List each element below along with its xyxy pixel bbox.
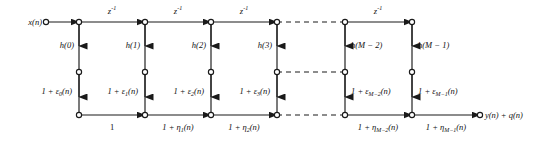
- tap-label-h3: h(3): [258, 41, 272, 50]
- gain-label-eps2: 1 + ε2(n): [173, 87, 204, 98]
- gain-label-eps3: 1 + ε3(n): [239, 87, 270, 98]
- tap-label-hM2: h(M − 2): [351, 41, 382, 50]
- input-node: [43, 19, 48, 24]
- delay-label-3: z-1: [374, 5, 382, 15]
- flow-graph-canvas: [0, 0, 544, 141]
- gain-label-epsM1: 1 + εM−1(n): [418, 87, 458, 98]
- delay-label-1: z-1: [174, 5, 182, 15]
- tap-label-h2: h(2): [192, 41, 206, 50]
- gain-label-eps1: 1 + ε1(n): [107, 87, 138, 98]
- input-label: x(n): [28, 18, 42, 27]
- sum-label-0: 1: [110, 123, 114, 134]
- delay-label-0: z-1: [108, 5, 116, 15]
- tap-label-h0: h(0): [60, 41, 74, 50]
- gain-label-eps0: 1 + ε0(n): [41, 87, 72, 98]
- output-node: [477, 112, 482, 117]
- sum-label-2: 1 + η2(n): [228, 123, 259, 134]
- tap-label-hM1: h(M − 1): [418, 41, 449, 50]
- sum-label-M2: 1 + ηM−2(n): [358, 123, 398, 134]
- sum-label-1: 1 + η1(n): [162, 123, 193, 134]
- gain-label-epsM2: 1 + εM−2(n): [351, 87, 391, 98]
- graph-nodes: [43, 19, 482, 117]
- sum-label-M1: 1 + ηM−1(n): [426, 123, 466, 134]
- output-label: y(n) + q(n): [485, 111, 523, 120]
- tap-label-h1: h(1): [126, 41, 140, 50]
- signal-flow-diagram: x(n) y(n) + q(n) z-1 z-1 z-1 z-1 h(0) h(…: [0, 0, 544, 141]
- delay-label-2: z-1: [240, 5, 248, 15]
